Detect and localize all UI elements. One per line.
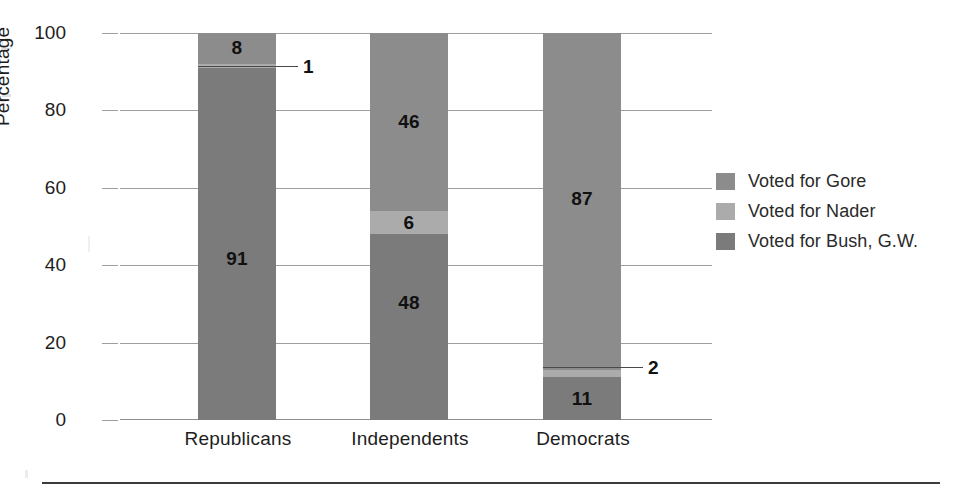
bar-group-republicans[interactable]: 8 91	[198, 33, 276, 420]
legend-swatch-nader	[716, 203, 735, 220]
bar-value-label: 11	[543, 388, 621, 410]
x-tick-label-democrats: Democrats	[475, 428, 691, 450]
y-tick-label-60: 60	[0, 177, 66, 199]
y-tick-mark	[102, 265, 118, 266]
y-tick-mark	[102, 33, 118, 34]
callout-value: 2	[648, 357, 659, 378]
y-tick-label-100: 100	[0, 22, 66, 44]
leader-line	[543, 367, 643, 368]
bar-segment-nader[interactable]: 6	[370, 211, 448, 234]
leader-line	[198, 66, 298, 67]
plot-area: 8 91 46 6 48 87 11	[120, 33, 712, 420]
bar-value-label: 48	[370, 292, 448, 314]
legend-label: Voted for Bush, G.W.	[748, 231, 918, 252]
bar-group-independents[interactable]: 46 6 48	[370, 33, 448, 420]
callout-democrats-nader: 2	[543, 357, 659, 379]
y-tick-label-40: 40	[0, 254, 66, 276]
y-tick-mark	[102, 188, 118, 189]
y-tick-mark	[102, 110, 118, 111]
legend-label: Voted for Nader	[748, 201, 876, 222]
bar-segment-gore[interactable]: 87	[543, 33, 621, 370]
legend-item-gore[interactable]: Voted for Gore	[716, 168, 956, 194]
legend-swatch-bush	[716, 233, 735, 250]
bar-segment-bush[interactable]: 91	[198, 68, 276, 420]
page-divider-rule	[42, 482, 940, 484]
bar-value-label: 87	[543, 188, 621, 210]
legend-item-nader[interactable]: Voted for Nader	[716, 198, 956, 224]
y-tick-label-20: 20	[0, 332, 66, 354]
legend-item-bush[interactable]: Voted for Bush, G.W.	[716, 228, 956, 254]
y-tick-label-0: 0	[0, 409, 66, 431]
bar-value-label: 46	[370, 111, 448, 133]
stacked-bar-chart: Percentage 100 80 60 40 20 0 8 91	[0, 0, 970, 496]
bar-segment-gore[interactable]: 46	[370, 33, 448, 211]
chart-legend: Voted for Gore Voted for Nader Voted for…	[716, 168, 956, 258]
legend-label: Voted for Gore	[748, 171, 866, 192]
bar-value-label: 6	[370, 212, 448, 234]
callout-republicans-nader: 1	[198, 56, 314, 78]
legend-swatch-gore	[716, 173, 735, 190]
bar-value-label: 91	[198, 248, 276, 270]
y-tick-mark	[102, 420, 118, 421]
y-tick-mark	[102, 343, 118, 344]
bar-segment-bush[interactable]: 48	[370, 234, 448, 420]
y-tick-label-80: 80	[0, 99, 66, 121]
bar-segment-bush[interactable]: 11	[543, 377, 621, 420]
callout-value: 1	[303, 56, 314, 77]
